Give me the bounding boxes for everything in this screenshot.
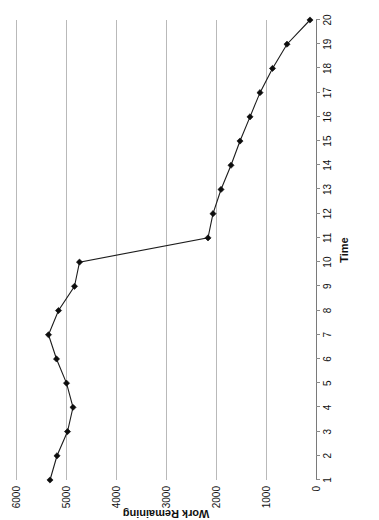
x-axis-tick: [316, 92, 320, 93]
x-axis-tick-label: 13: [322, 178, 333, 200]
data-point-marker: [247, 114, 253, 120]
x-axis-tick-label: 16: [322, 106, 333, 128]
x-axis-tick: [316, 188, 320, 189]
x-axis-tick: [316, 310, 320, 311]
x-axis-tick: [316, 67, 320, 68]
x-axis-tick-label: 18: [322, 57, 333, 79]
series-markers-group: [45, 17, 313, 483]
x-axis-tick: [316, 382, 320, 383]
data-point-marker: [205, 235, 211, 241]
data-point-marker: [269, 65, 275, 71]
y-axis-tick-label: 3000: [161, 486, 172, 508]
data-point-marker: [218, 186, 224, 192]
y-axis-tick-label: 5000: [61, 486, 72, 508]
series-polyline: [49, 20, 311, 480]
data-point-marker: [54, 453, 60, 459]
x-axis-tick-label: 7: [322, 324, 333, 346]
x-axis-tick-label: 15: [322, 130, 333, 152]
x-axis-tick-label: 8: [322, 300, 333, 322]
data-point-marker: [53, 356, 59, 362]
x-axis-tick: [316, 140, 320, 141]
x-axis-tick-label: 20: [322, 9, 333, 31]
x-axis-title: Time: [338, 237, 350, 262]
x-axis-tick: [316, 431, 320, 432]
x-axis-tick: [316, 164, 320, 165]
x-axis-tick: [316, 116, 320, 117]
x-axis-tick-label: 3: [322, 421, 333, 443]
y-axis-tick-label: 4000: [111, 486, 122, 508]
x-axis-tick-label: 12: [322, 203, 333, 225]
x-axis-tick: [316, 19, 320, 20]
y-axis-tick-label: 1000: [261, 486, 272, 508]
data-point-marker: [47, 477, 53, 483]
x-axis-tick: [316, 406, 320, 407]
data-point-marker: [63, 380, 69, 386]
x-axis-line: [316, 20, 317, 480]
x-axis-tick: [316, 213, 320, 214]
x-axis-tick-label: 5: [322, 372, 333, 394]
data-point-marker: [64, 428, 70, 434]
data-point-marker: [237, 138, 243, 144]
x-axis-tick: [316, 285, 320, 286]
y-axis-tick-label: 0: [311, 486, 322, 492]
plot-area: 1234567891011121314151617181920 01000200…: [16, 20, 316, 480]
data-point-marker: [45, 332, 51, 338]
x-axis-tick-label: 14: [322, 154, 333, 176]
x-axis-tick-label: 19: [322, 33, 333, 55]
data-point-marker: [76, 259, 82, 265]
x-axis-tick: [316, 237, 320, 238]
x-axis-tick-label: 6: [322, 348, 333, 370]
data-point-marker: [257, 90, 263, 96]
x-axis-tick: [316, 261, 320, 262]
data-point-marker: [210, 211, 216, 217]
x-axis-tick: [316, 479, 320, 480]
data-point-marker: [70, 404, 76, 410]
x-axis-tick: [316, 334, 320, 335]
x-axis-tick-label: 1: [322, 469, 333, 491]
data-point-marker: [71, 283, 77, 289]
data-point-marker: [55, 307, 61, 313]
x-axis-tick-label: 17: [322, 82, 333, 104]
x-axis-tick-label: 10: [322, 251, 333, 273]
x-axis-tick: [316, 43, 320, 44]
y-axis-title: Work Remaining: [123, 508, 210, 520]
data-point-marker: [228, 162, 234, 168]
x-axis-tick-label: 2: [322, 445, 333, 467]
x-axis-tick-label: 9: [322, 275, 333, 297]
x-axis-tick: [316, 455, 320, 456]
work-remaining-line-series: [16, 20, 316, 480]
y-axis-tick-label: 6000: [11, 486, 22, 508]
x-axis-tick: [316, 358, 320, 359]
x-axis-tick-label: 4: [322, 396, 333, 418]
y-axis-tick-label: 2000: [211, 486, 222, 508]
x-axis-tick-label: 11: [322, 227, 333, 249]
